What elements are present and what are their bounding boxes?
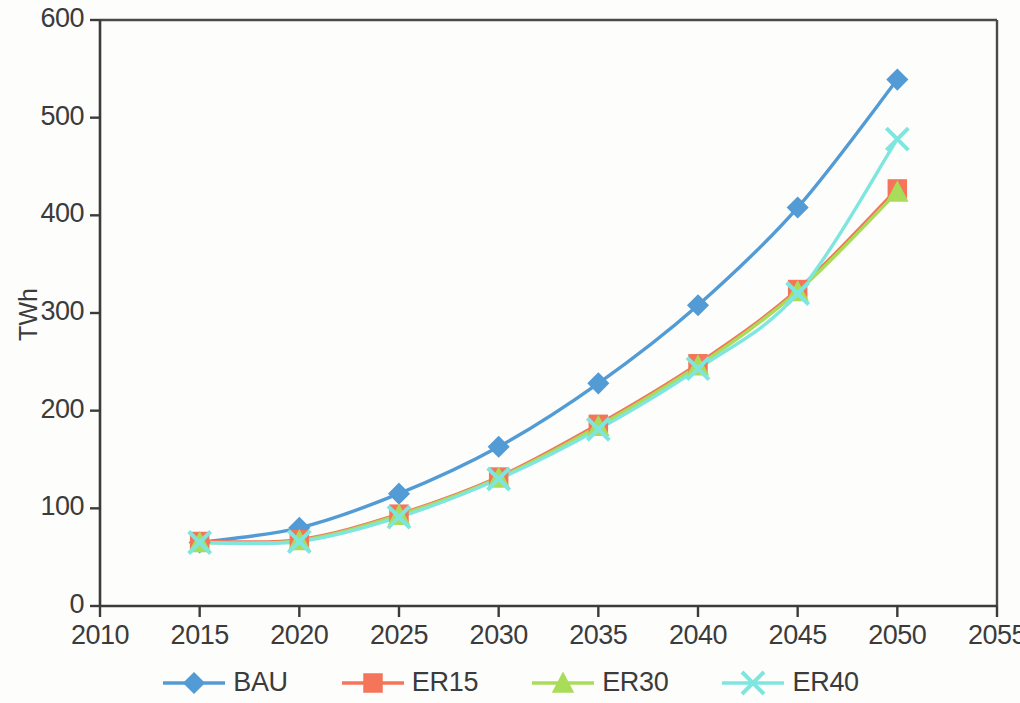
x-axis-tick-label: 2050 <box>857 620 937 651</box>
series-line-er40 <box>200 139 898 544</box>
x-axis-tick-label: 2055 <box>957 620 1020 651</box>
x-axis-tick-label: 2030 <box>459 620 539 651</box>
x-axis-tick-label: 2040 <box>658 620 738 651</box>
legend-label-er30: ER30 <box>602 667 668 698</box>
series-markers-er40 <box>189 128 909 553</box>
y-axis-tick-label: 100 <box>0 491 84 522</box>
y-axis-tick-label: 400 <box>0 198 84 229</box>
chart-figure: TWh 0100200300400500600 2010201520202025… <box>0 0 1020 703</box>
legend-label-er40: ER40 <box>792 667 858 698</box>
datapoint-bau-2025 <box>389 484 409 504</box>
x-axis-tick-label: 2025 <box>359 620 439 651</box>
legend-item-bau[interactable]: BAU <box>161 667 288 698</box>
legend-swatch-cross-icon <box>720 668 786 698</box>
series-line-er15 <box>200 189 898 542</box>
legend-item-er40[interactable]: ER40 <box>720 667 858 698</box>
y-axis-tick-label: 200 <box>0 394 84 425</box>
legend-label-er15: ER15 <box>412 667 478 698</box>
legend-item-er15[interactable]: ER15 <box>340 667 478 698</box>
chart-plot-area <box>0 0 1020 703</box>
series-line-bau <box>200 80 898 543</box>
chart-legend: BAUER15ER30ER40 <box>0 662 1020 703</box>
series-markers-er15 <box>191 180 907 551</box>
y-axis-tick-label: 300 <box>0 296 84 327</box>
y-axis-tick-label: 0 <box>0 589 84 620</box>
x-axis-tick-label: 2015 <box>160 620 240 651</box>
legend-swatch-square-icon <box>340 668 406 698</box>
x-axis-tick-label: 2035 <box>558 620 638 651</box>
x-axis-tick-label: 2010 <box>60 620 140 651</box>
series-markers-bau <box>190 70 908 553</box>
series-group <box>189 70 909 554</box>
legend-item-er30[interactable]: ER30 <box>530 667 668 698</box>
y-axis-tick-label: 600 <box>0 3 84 34</box>
legend-swatch-diamond-icon <box>161 668 227 698</box>
datapoint-er40-2050 <box>886 128 908 150</box>
legend-marker <box>184 673 204 693</box>
datapoint-bau-2030 <box>489 437 509 457</box>
legend-swatch-triangle-icon <box>530 668 596 698</box>
series-line-er30 <box>200 192 898 543</box>
x-axis-tick-label: 2045 <box>758 620 838 651</box>
axes-group <box>90 20 997 617</box>
legend-marker <box>364 674 382 692</box>
legend-label-bau: BAU <box>233 667 288 698</box>
series-markers-er30 <box>190 182 908 552</box>
x-axis-tick-label: 2020 <box>259 620 339 651</box>
y-axis-tick-label: 500 <box>0 101 84 132</box>
